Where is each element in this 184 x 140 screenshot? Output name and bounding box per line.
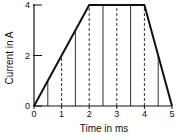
y-tick-label: 0	[25, 101, 30, 111]
plot-area: 024012345	[25, 0, 175, 119]
x-tick-label: 5	[169, 109, 174, 119]
x-tick-label: 2	[87, 109, 92, 119]
x-tick-label: 0	[31, 109, 36, 119]
x-axis-label: Time in ms	[80, 123, 129, 134]
current-time-chart: 024012345 Time in ms Current in A	[0, 0, 184, 140]
x-tick-label: 4	[142, 109, 147, 119]
y-axis-label: Current in A	[4, 31, 15, 84]
y-tick-label: 2	[25, 51, 30, 61]
x-tick-label: 3	[114, 109, 119, 119]
y-tick-label: 4	[25, 0, 30, 10]
x-tick-label: 1	[59, 109, 64, 119]
